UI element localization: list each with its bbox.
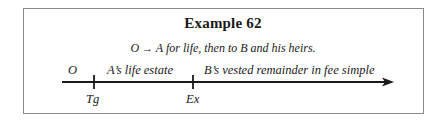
tick-label-ex: Ex — [186, 92, 199, 107]
segment-label-grantor: O — [68, 63, 77, 78]
tick-label-tg: Tg — [86, 92, 99, 107]
segment-label-life-estate: A’s life estate — [107, 63, 173, 78]
segment-label-remainder: B’s vested remainder in fee simple — [204, 63, 374, 78]
timeline-diagram — [0, 0, 446, 120]
